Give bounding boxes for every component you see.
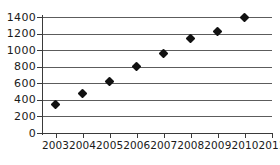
y-axis-tick-label: 0 <box>0 128 36 139</box>
x-axis-tick <box>110 133 111 138</box>
y-axis-tick-label: 600 <box>0 78 36 89</box>
x-axis-tick-label: 2007 <box>149 140 179 151</box>
x-axis-tick-label: 2003 <box>41 140 71 151</box>
plot-area <box>42 17 272 133</box>
y-axis-tick-label: 200 <box>0 111 36 122</box>
y-axis-labels: 0200400600800100012001400 <box>0 0 36 165</box>
x-axis-tick <box>83 133 84 138</box>
x-axis-tick <box>272 133 273 138</box>
y-axis-tick-label: 1400 <box>0 12 36 23</box>
x-axis-tick <box>56 133 57 138</box>
gridline <box>42 17 272 18</box>
x-axis-tick-label: 2004 <box>68 140 98 151</box>
data-point <box>105 77 115 87</box>
x-axis-tick-label: 2005 <box>95 140 125 151</box>
gridline <box>42 67 272 68</box>
gridline <box>42 50 272 51</box>
y-axis-tick-label: 1000 <box>0 45 36 56</box>
x-axis-tick-label: 2010 <box>230 140 260 151</box>
x-axis-tick-label: 2009 <box>203 140 233 151</box>
x-axis-tick-label: 2006 <box>122 140 152 151</box>
x-axis-tick <box>164 133 165 138</box>
gridline <box>42 116 272 117</box>
x-axis-tick-label: 2008 <box>176 140 206 151</box>
x-axis-tick <box>218 133 219 138</box>
data-point <box>240 12 250 22</box>
x-axis-tick <box>245 133 246 138</box>
scatter-chart: 0200400600800100012001400 20032004200520… <box>0 0 280 165</box>
gridline <box>42 34 272 35</box>
x-axis-tick <box>137 133 138 138</box>
data-point <box>51 100 61 110</box>
data-point <box>132 62 142 72</box>
x-axis-tick-label: 2011 <box>257 140 280 151</box>
data-point <box>186 34 196 44</box>
y-axis-line <box>42 15 43 135</box>
data-point <box>78 88 88 98</box>
y-axis-tick-label: 1200 <box>0 28 36 39</box>
gridline <box>42 83 272 84</box>
y-axis-tick-label: 800 <box>0 61 36 72</box>
x-axis-tick <box>191 133 192 138</box>
x-axis-line <box>42 133 273 134</box>
y-axis-tick-label: 400 <box>0 94 36 105</box>
gridline <box>42 100 272 101</box>
